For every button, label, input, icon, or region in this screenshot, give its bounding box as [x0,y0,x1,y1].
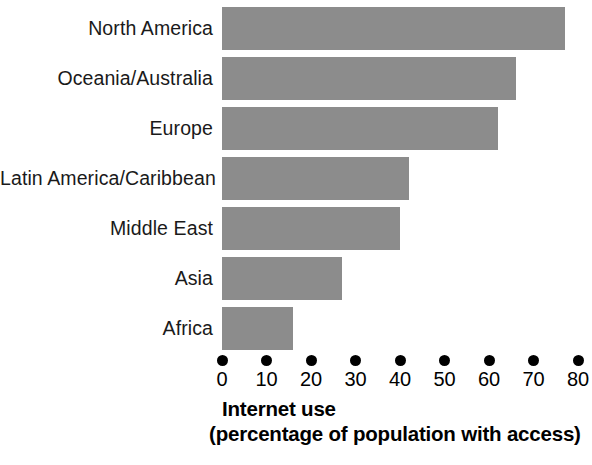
bar [222,7,565,50]
bar-category-label: Europe [0,107,213,150]
bar [222,207,400,250]
x-axis-tick-label: 60 [469,368,509,390]
x-axis-tick-label: 20 [291,368,331,390]
x-axis-tick-label: 80 [558,368,592,390]
bar-track [222,157,582,200]
bar-row: Europe [0,107,592,150]
x-axis-tick: 70 [514,352,554,390]
tick-dot-icon [573,355,584,366]
caption-line-2: (percentage of population with access) [209,421,592,446]
x-axis-tick-label: 70 [514,368,554,390]
horizontal-bar-chart: North AmericaOceania/AustraliaEuropeLati… [0,0,592,465]
x-axis-tick: 20 [291,352,331,390]
bar-row: North America [0,7,592,50]
bar-track [222,257,582,300]
bar-category-label: Middle East [0,207,213,250]
x-axis-tick-label: 50 [425,368,465,390]
x-axis-tick-label: 0 [202,368,242,390]
bar-row: Asia [0,257,592,300]
x-axis-tick: 0 [202,352,242,390]
bar-row: Africa [0,307,592,350]
tick-dot-icon [350,355,361,366]
bar-category-label: Latin America/Caribbean [0,157,213,200]
bar [222,107,498,150]
bar [222,257,342,300]
x-axis-tick-label: 30 [336,368,376,390]
bar-track [222,207,582,250]
x-axis-tick: 10 [247,352,287,390]
bar-category-label: Asia [0,257,213,300]
bar-track [222,57,582,100]
bar-category-label: North America [0,7,213,50]
x-axis-tick-label: 10 [247,368,287,390]
bar-track [222,7,582,50]
bar-track [222,307,582,350]
bar-category-label: Oceania/Australia [0,57,213,100]
tick-dot-icon [439,355,450,366]
tick-dot-icon [528,355,539,366]
x-axis-tick-label: 40 [380,368,420,390]
x-axis-tick: 30 [336,352,376,390]
x-axis-tick: 40 [380,352,420,390]
x-axis: 01020304050607080 [0,352,592,392]
bar [222,57,516,100]
x-axis-tick: 60 [469,352,509,390]
bar-row: Middle East [0,207,592,250]
tick-dot-icon [395,355,406,366]
bar-track [222,107,582,150]
bar-row: Oceania/Australia [0,57,592,100]
tick-dot-icon [484,355,495,366]
bar [222,307,293,350]
x-axis-tick: 50 [425,352,465,390]
tick-dot-icon [306,355,317,366]
tick-dot-icon [217,355,228,366]
bar-row: Latin America/Caribbean [0,157,592,200]
bar [222,157,409,200]
x-axis-caption: Internet use (percentage of population w… [209,396,592,446]
tick-dot-icon [261,355,272,366]
caption-line-1: Internet use [209,396,592,421]
bar-category-label: Africa [0,307,213,350]
x-axis-tick: 80 [558,352,592,390]
